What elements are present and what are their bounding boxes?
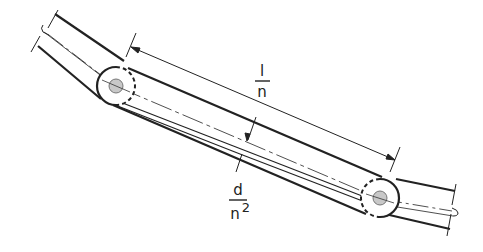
right-pin-icon xyxy=(373,191,387,205)
arrowhead-right-icon xyxy=(386,154,395,160)
svg-text:l: l xyxy=(260,62,264,80)
right-pin-joint xyxy=(361,179,399,217)
svg-text:n: n xyxy=(230,205,240,223)
arrowhead-down-icon xyxy=(245,133,250,141)
svg-text:n: n xyxy=(257,83,267,101)
svg-text:d: d xyxy=(233,181,243,199)
arrowhead-left-icon xyxy=(131,47,140,53)
length-label: l n xyxy=(255,62,270,101)
deflection-label: d n 2 xyxy=(229,181,250,223)
svg-text:2: 2 xyxy=(242,200,250,215)
length-dimension xyxy=(126,33,400,172)
left-pin-joint xyxy=(97,67,135,105)
chain-link-diagram: l n d n 2 xyxy=(0,0,483,252)
